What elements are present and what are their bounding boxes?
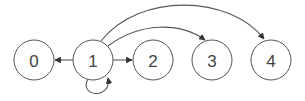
node-label-3: 3 <box>207 52 216 71</box>
node-label-1: 1 <box>88 52 97 71</box>
node-4: 4 <box>251 40 291 80</box>
node-label-2: 2 <box>148 52 157 71</box>
node-2: 2 <box>133 40 173 80</box>
node-0: 0 <box>14 40 54 80</box>
node-label-0: 0 <box>29 52 38 71</box>
node-3: 3 <box>192 40 232 80</box>
edge-1-self-loop <box>86 78 108 94</box>
node-1: 1 <box>73 40 113 80</box>
graph-diagram: 0 1 2 3 4 <box>0 0 305 101</box>
node-label-4: 4 <box>266 52 275 71</box>
